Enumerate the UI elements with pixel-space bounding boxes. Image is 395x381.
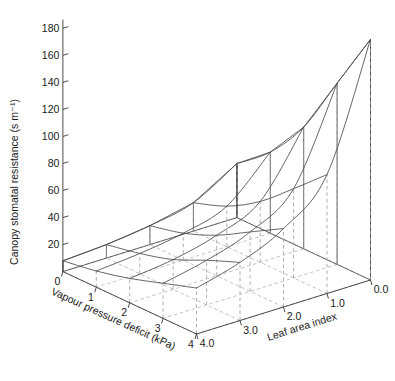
y-axis-tick — [284, 307, 285, 312]
z-axis-tick — [63, 162, 69, 164]
y-axis-tick — [197, 334, 198, 339]
z-axis-tick — [63, 108, 69, 110]
y-axis-tick — [240, 321, 241, 326]
z-axis-tick-label: 40 — [48, 211, 60, 223]
z-axis-tick — [63, 135, 69, 137]
mesh-curve-constant-lai — [63, 261, 197, 288]
z-axis-tick — [63, 189, 69, 191]
z-axis-tick-label: 120 — [42, 103, 60, 115]
y-axis-tick-label: 1.0 — [330, 297, 345, 309]
x-axis-tick — [61, 272, 63, 277]
mesh-curve-constant-lai — [150, 226, 284, 236]
mesh-surface-lines — [63, 39, 371, 288]
z-axis-tick — [63, 54, 69, 56]
z-axis-tick — [63, 216, 69, 218]
mesh-curve-constant-vpd — [63, 164, 237, 261]
z-axis-tick-label: 60 — [48, 184, 60, 196]
z-axis-tick-label: 80 — [48, 157, 60, 169]
z-axis-tick-label: 160 — [42, 49, 60, 61]
x-axis-tick — [95, 287, 97, 292]
vertical-stem-lines — [63, 39, 371, 334]
x-axis-tick-label: 4 — [188, 338, 194, 350]
x-axis-tick — [128, 303, 130, 308]
y-axis-tick — [371, 280, 372, 285]
mesh-curve-constant-vpd — [163, 83, 337, 283]
y-axis-tick-label: 3.0 — [243, 324, 258, 336]
z-axis-tick-label: 100 — [42, 130, 60, 142]
mesh-curve-constant-lai — [106, 245, 240, 263]
z-axis-tick — [63, 27, 69, 29]
y-axis-tick-label: 0.0 — [374, 283, 389, 295]
z-axis-tick — [63, 81, 69, 83]
mesh-curve-constant-lai — [193, 175, 327, 207]
z-axis-tick — [63, 243, 69, 245]
x-axis-tick — [162, 318, 164, 323]
y-axis-title: Leaf area index — [265, 309, 338, 342]
figure-canvas: 20406080100120140160180432100.01.02.03.0… — [0, 0, 395, 381]
axis-lines-and-ticks: 20406080100120140160180432100.01.02.03.0… — [42, 20, 389, 349]
z-axis-title: Canopy stomatal resistance (s m⁻¹) — [8, 99, 20, 265]
y-axis-tick-label: 4.0 — [200, 337, 215, 349]
z-axis-tick-label: 180 — [42, 22, 60, 34]
z-axis-tick-label: 140 — [42, 76, 60, 88]
z-axis-tick-label: 20 — [48, 238, 60, 250]
surface-plot-3d: 20406080100120140160180432100.01.02.03.0… — [0, 0, 395, 381]
y-axis-tick — [327, 294, 328, 299]
